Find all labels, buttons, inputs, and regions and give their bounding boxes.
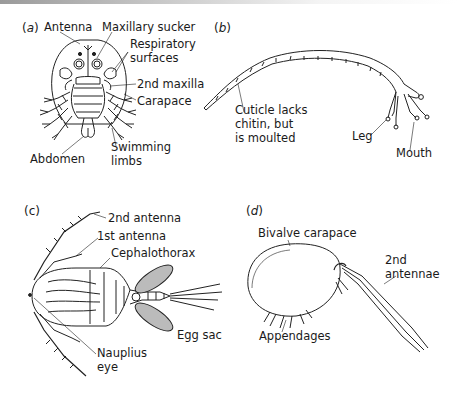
- panel-b-letter: (b): [214, 21, 231, 35]
- label-2nd-antenna: 2nd antenna: [108, 211, 181, 225]
- panel-b-paren-close: ): [226, 21, 231, 35]
- diagram-artwork: [0, 0, 457, 400]
- label-cuticle: Cuticle lacks chitin, but is moulted: [235, 103, 308, 145]
- label-swimming-limbs: Swimming limbs: [111, 140, 171, 168]
- label-carapace: Carapace: [137, 94, 192, 108]
- panel-a-letter-text: a: [27, 21, 34, 35]
- label-maxillary-sucker: Maxillary sucker: [102, 20, 195, 34]
- panel-a-letter: (a): [22, 21, 39, 35]
- label-mouth: Mouth: [396, 146, 432, 160]
- label-abdomen: Abdomen: [30, 152, 85, 166]
- label-1st-antenna: 1st antenna: [97, 229, 166, 243]
- label-cephalothorax: Cephalothorax: [111, 246, 195, 260]
- panel-c-paren-close: ): [35, 204, 40, 218]
- label-appendages: Appendages: [259, 329, 331, 343]
- label-leg: Leg: [352, 129, 373, 143]
- panel-d-letter: (d): [246, 204, 263, 218]
- panel-a-drawing: [40, 32, 136, 154]
- label-nauplius-eye: Nauplius eye: [97, 346, 147, 374]
- label-egg-sac: Egg sac: [177, 328, 222, 342]
- panel-a-paren-close: ): [34, 21, 39, 35]
- label-respiratory-surfaces: Respiratory surfaces: [130, 37, 196, 65]
- label-antenna: Antenna: [44, 20, 92, 34]
- label-bivalve-carapace: Bivalve carapace: [258, 226, 357, 240]
- label-2nd-maxilla: 2nd maxilla: [137, 77, 204, 91]
- label-2nd-antennae: 2nd antennae: [385, 253, 440, 281]
- panel-d-paren-close: ): [258, 204, 263, 218]
- panel-c-letter: (c): [24, 204, 40, 218]
